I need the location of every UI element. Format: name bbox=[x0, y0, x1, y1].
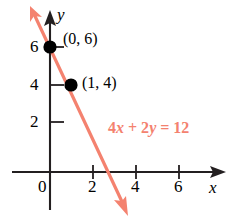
x-tick-label-0: 0 bbox=[38, 178, 47, 195]
x-tick-label-4: 4 bbox=[131, 178, 140, 195]
equation-plus-2: + 2 bbox=[124, 119, 149, 136]
y-tick-label-2: 2 bbox=[30, 113, 39, 130]
x-axis-label: x bbox=[209, 179, 217, 196]
y-axis-label: y bbox=[57, 6, 65, 23]
equation-annotation: 4x + 2y = 12 bbox=[108, 120, 189, 136]
equation-equals-12: = 12 bbox=[156, 119, 189, 136]
y-tick-label-6: 6 bbox=[30, 38, 39, 55]
coordinate-plane-svg bbox=[0, 0, 239, 222]
x-tick-label-2: 2 bbox=[88, 178, 97, 195]
point-label-1-4: (1, 4) bbox=[82, 75, 117, 91]
equation-var-x: x bbox=[116, 119, 124, 136]
graph-figure: 6 4 2 0 2 4 6 y x (0, 6) (1, 4) 4x + 2y … bbox=[0, 0, 239, 222]
data-point-1-4 bbox=[64, 78, 77, 91]
y-tick-label-4: 4 bbox=[30, 76, 39, 93]
data-point-0-6 bbox=[43, 40, 56, 53]
equation-coef-4: 4 bbox=[108, 119, 116, 136]
point-label-0-6: (0, 6) bbox=[63, 31, 98, 47]
x-tick-label-6: 6 bbox=[174, 178, 183, 195]
